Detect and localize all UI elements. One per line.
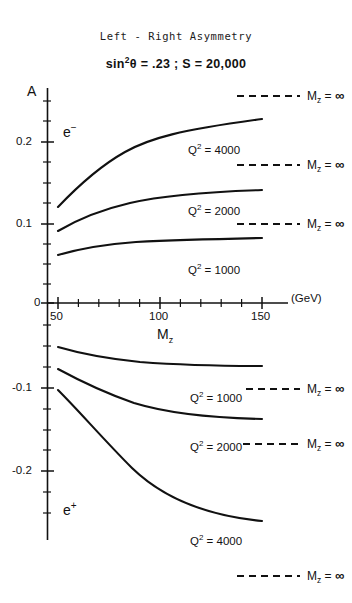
curve-e-minus-q1000 <box>58 238 262 255</box>
curve-e-minus-q4000 <box>58 119 262 207</box>
plot-canvas <box>0 0 352 603</box>
curve-e-plus-q1000 <box>58 347 262 366</box>
asymptote-dashes <box>237 96 300 576</box>
curve-e-plus-q2000 <box>58 369 262 419</box>
curve-e-minus-q2000 <box>58 190 262 231</box>
